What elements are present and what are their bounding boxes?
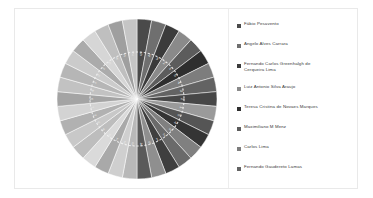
legend-item-teresa-cristina-de-novaes-marques[interactable]: Teresa Cristina de Novaes Marques bbox=[237, 104, 355, 111]
legend-divider bbox=[228, 9, 229, 188]
legend-swatch-icon bbox=[237, 167, 241, 171]
legend-item-luiz-antonio-silva-araujo[interactable]: Luiz Antonio Silva Araujo bbox=[237, 84, 355, 91]
legend-swatch-icon bbox=[237, 107, 241, 111]
legend-item-label: Fernando Gaudereto Lamas bbox=[244, 164, 302, 170]
chart-legend: Fábio Pesavento Angelo Alves Carrara Fer… bbox=[237, 21, 355, 181]
pie-chart-plot-area: 5432154321543215432154321543215432 bbox=[15, 9, 229, 188]
legend-item-label: Maximiliano M Menz bbox=[244, 124, 286, 130]
legend-item-label: Fernando Carlos Greenhalgh de Cerqueira … bbox=[244, 61, 310, 73]
legend-swatch-icon bbox=[237, 24, 241, 28]
legend-item-fernando-carlos-greenhalgh-de-cerqueira-lima[interactable]: Fernando Carlos Greenhalgh de Cerqueira … bbox=[237, 61, 355, 73]
legend-item-label: Angelo Alves Carrara bbox=[244, 41, 288, 47]
legend-swatch-icon bbox=[237, 44, 241, 48]
legend-item-label: Fábio Pesavento bbox=[244, 21, 279, 27]
legend-swatch-icon bbox=[237, 64, 241, 68]
legend-item-label: Carlos Lima bbox=[244, 144, 269, 150]
legend-item-label: Luiz Antonio Silva Araujo bbox=[244, 84, 295, 90]
legend-swatch-icon bbox=[237, 87, 241, 91]
pie-chart: 5432154321543215432154321543215432 bbox=[56, 18, 218, 180]
legend-item-label: Teresa Cristina de Novaes Marques bbox=[244, 104, 318, 110]
legend-swatch-icon bbox=[237, 147, 241, 151]
legend-swatch-icon bbox=[237, 127, 241, 131]
pie-chart-svg: 5432154321543215432154321543215432 bbox=[56, 18, 218, 180]
legend-item-carlos-lima[interactable]: Carlos Lima bbox=[237, 144, 355, 151]
legend-item-fernando-gaudereto-lamas[interactable]: Fernando Gaudereto Lamas bbox=[237, 164, 355, 171]
legend-item-angelo-alves-carrara[interactable]: Angelo Alves Carrara bbox=[237, 41, 355, 48]
chart-card: 5432154321543215432154321543215432 Fábio… bbox=[14, 8, 358, 189]
legend-item-fabio-pesavento[interactable]: Fábio Pesavento bbox=[237, 21, 355, 28]
legend-item-maximiliano-m-menz[interactable]: Maximiliano M Menz bbox=[237, 124, 355, 131]
